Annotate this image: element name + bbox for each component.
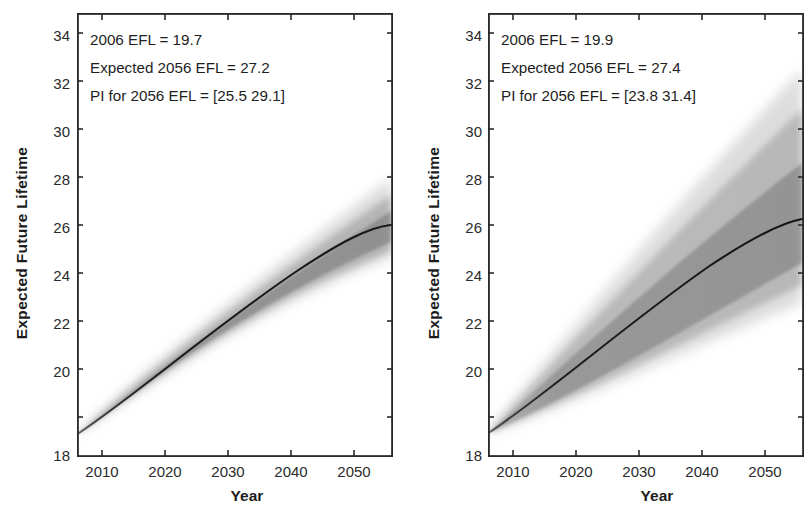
y-tick-label: 22 xyxy=(36,316,70,331)
y-tick-label: 32 xyxy=(36,76,70,91)
y-tick-label: 34 xyxy=(448,28,482,43)
annotation-current-efl: 2006 EFL = 19.7 xyxy=(90,32,202,47)
y-tick-label: 28 xyxy=(36,172,70,187)
y-tick-label: 18 xyxy=(36,448,70,463)
y-tick-label: 26 xyxy=(448,220,482,235)
y-tick-label: 30 xyxy=(36,124,70,139)
x-tick-label: 2030 xyxy=(609,464,669,479)
annotation-pi-efl: PI for 2056 EFL = [23.8 31.4] xyxy=(501,88,696,103)
y-tick-label: 22 xyxy=(448,316,482,331)
chart-panel-left: Expected Future Lifetime 34 32 30 28 26 … xyxy=(0,0,406,527)
y-tick-label: 24 xyxy=(36,268,70,283)
x-tick-label: 2020 xyxy=(546,464,606,479)
x-tick-label: 2050 xyxy=(735,464,795,479)
annotation-current-efl: 2006 EFL = 19.9 xyxy=(501,32,613,47)
annotation-expected-efl: Expected 2056 EFL = 27.2 xyxy=(90,60,270,75)
x-tick-label: 2020 xyxy=(135,464,195,479)
x-tick-label: 2010 xyxy=(72,464,132,479)
y-tick-label: 32 xyxy=(448,76,482,91)
plot-area-right xyxy=(488,13,804,457)
y-tick-label: 30 xyxy=(448,124,482,139)
y-tick-label: 34 xyxy=(36,28,70,43)
x-axis-title: Year xyxy=(44,487,450,505)
x-tick-label: 2010 xyxy=(483,464,543,479)
y-tick-label: 20 xyxy=(36,364,70,379)
x-tick-label: 2040 xyxy=(672,464,732,479)
y-tick-label: 28 xyxy=(448,172,482,187)
y-axis-title: Expected Future Lifetime xyxy=(425,93,443,393)
annotation-pi-efl: PI for 2056 EFL = [25.5 29.1] xyxy=(90,88,285,103)
y-tick-label: 24 xyxy=(448,268,482,283)
chart-panel-right: Expected Future Lifetime 34 32 30 28 26 … xyxy=(406,0,812,527)
x-tick-label: 2050 xyxy=(324,464,384,479)
y-tick-label: 26 xyxy=(36,220,70,235)
x-axis-title: Year xyxy=(454,487,812,505)
x-tick-label: 2040 xyxy=(261,464,321,479)
figure-root: Expected Future Lifetime 34 32 30 28 26 … xyxy=(0,0,812,527)
y-tick-label: 20 xyxy=(448,364,482,379)
annotation-expected-efl: Expected 2056 EFL = 27.4 xyxy=(501,60,681,75)
x-tick-label: 2030 xyxy=(198,464,258,479)
y-tick-label: 18 xyxy=(448,448,482,463)
plot-area-left xyxy=(77,13,393,457)
y-axis-title: Expected Future Lifetime xyxy=(13,93,31,393)
